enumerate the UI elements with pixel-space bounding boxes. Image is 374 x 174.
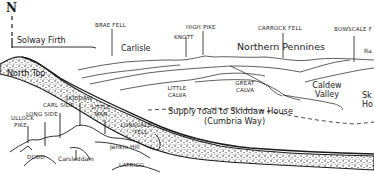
carsleddam-label: Carsleddam (58, 156, 94, 162)
caldew-valley-line-1: Caldew (310, 82, 344, 90)
little-man-line-2: MAN (89, 112, 113, 118)
skiddaw-label: SKIDDAW (65, 96, 92, 102)
little-man-line-1: LITTLE (89, 105, 113, 111)
long-side-label: LONG SIDE (26, 112, 58, 118)
latrigg-label: LATRIGG (119, 163, 144, 169)
northern-pennines-label: Northern Pennines (237, 42, 325, 52)
great-calva-line-2: CALVA (232, 88, 258, 94)
dodd-label: DODD (27, 155, 45, 161)
north-label: N (6, 2, 17, 14)
ullock-pike-line-2: PIKE (14, 123, 34, 129)
caldew-valley-line-2: Valley (310, 91, 344, 99)
carl-side-label: CARL SIDE (43, 103, 74, 109)
high-pike-label: HIGH PIKE (186, 25, 216, 31)
little-calva-line-2: CALVA (164, 93, 190, 99)
jenkin-hill-label: Jenkin Hill (110, 144, 140, 150)
lonscale-fell-label: LONSCALE FELL (118, 123, 154, 135)
knott-label: KNOTT (174, 35, 194, 41)
great-calva-label: GREAT CALVA (232, 81, 258, 93)
supply-road-label: Supply road to Skiddaw House (168, 107, 293, 115)
skiddaw-house-line-1: Sk (362, 92, 373, 100)
north-top-label: North Top (7, 70, 45, 78)
solway-firth-line (12, 47, 96, 48)
little-calva-line-1: LITTLE (164, 86, 190, 92)
skiddaw-house-line-2: Ho (362, 101, 373, 109)
caldew-valley-label: Caldew Valley (310, 82, 344, 99)
right-edge-peak-label: Ra (364, 48, 372, 54)
bowscale-fell-label: BOWSCALE F (334, 27, 372, 33)
carrock-fell-label: CARROCK FELL (258, 26, 302, 32)
solway-firth-label: Solway Firth (17, 37, 66, 45)
brae-fell-label: BRAE FELL (95, 23, 126, 29)
great-calva-line-1: GREAT (232, 81, 258, 87)
lonscale-fell-line-1: LONSCALE (118, 123, 154, 129)
carlisle-label: Carlisle (121, 45, 151, 53)
lonscale-fell-line-2: FELL (128, 130, 154, 136)
ullock-pike-label: ULLOCK PIKE (11, 116, 34, 128)
little-calva-label: LITTLE CALVA (164, 86, 190, 98)
cumbria-way-label: (Cumbria Way) (204, 117, 265, 125)
little-man-label: LITTLE MAN (89, 105, 113, 117)
skiddaw-house-label: Sk Ho (362, 92, 373, 109)
